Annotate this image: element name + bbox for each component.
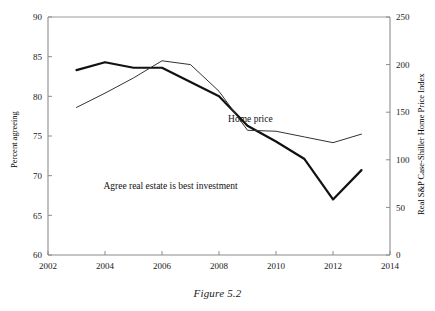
y-axis-right-tick-label: 150: [396, 107, 410, 117]
y-axis-right-tick-label: 0: [396, 250, 401, 260]
y-axis-right-tick-label: 50: [396, 203, 406, 213]
x-axis-tick-label: 2004: [96, 261, 115, 271]
x-axis-tick-label: 2006: [153, 261, 172, 271]
x-axis-tick-label: 2010: [267, 261, 286, 271]
series-annotation-label: Home price: [228, 114, 273, 124]
figure-caption: Figure 5.2: [0, 287, 435, 299]
series-layer: [77, 61, 362, 200]
series-line: [77, 62, 362, 199]
y-axis-left-tick-label: 80: [33, 92, 43, 102]
chart-canvas: 60657075808590 050100150200250 200220042…: [0, 0, 435, 311]
figure-container: 60657075808590 050100150200250 200220042…: [0, 0, 435, 311]
y-axis-left-ticks: 60657075808590: [33, 12, 52, 260]
x-axis-ticks: 2002200420062008201020122014: [39, 251, 400, 271]
y-axis-right-title: Real S&P Case-Shiller Home Price Index: [416, 73, 426, 215]
x-axis-tick-label: 2002: [39, 261, 57, 271]
series-line: [77, 61, 362, 143]
y-axis-left-tick-label: 75: [33, 131, 43, 141]
y-axis-left-tick-label: 70: [33, 171, 43, 181]
y-axis-left-tick-label: 65: [33, 211, 43, 221]
y-axis-left-title: Percent agreeing: [9, 110, 19, 168]
series-annotation-label: Agree real estate is best investment: [103, 181, 238, 191]
x-axis-tick-label: 2012: [324, 261, 342, 271]
y-axis-right-tick-label: 250: [396, 12, 410, 22]
y-axis-right-tick-label: 100: [396, 155, 410, 165]
x-axis-tick-label: 2014: [381, 261, 400, 271]
x-axis-tick-label: 2008: [210, 261, 229, 271]
y-axis-left-tick-label: 60: [33, 250, 43, 260]
y-axis-left-tick-label: 90: [33, 12, 43, 22]
y-axis-left-tick-label: 85: [33, 52, 43, 62]
plot-frame: [48, 17, 390, 255]
y-axis-right-tick-label: 200: [396, 60, 410, 70]
